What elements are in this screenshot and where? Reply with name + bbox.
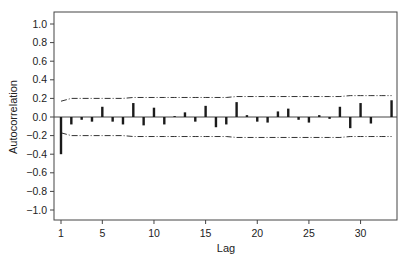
acf-bar bbox=[277, 111, 279, 117]
acf-bar bbox=[173, 116, 175, 117]
y-tick-label: 0.4 bbox=[32, 73, 47, 85]
plot-frame bbox=[54, 12, 397, 220]
y-tick-label: 0.8 bbox=[32, 36, 47, 48]
acf-bar bbox=[318, 115, 320, 117]
acf-bars bbox=[60, 100, 393, 154]
acf-bar bbox=[308, 117, 310, 123]
acf-bar bbox=[359, 103, 361, 117]
y-axis-label: Autocorrelation bbox=[7, 80, 19, 154]
acf-bar bbox=[246, 115, 248, 117]
x-tick-label: 30 bbox=[355, 227, 367, 239]
x-tick-label: 25 bbox=[303, 227, 315, 239]
y-tick-label: −0.6 bbox=[26, 166, 47, 178]
acf-bar bbox=[91, 117, 93, 122]
y-tick-label: −1.0 bbox=[26, 204, 47, 216]
y-tick-label: −0.4 bbox=[26, 148, 47, 160]
acf-bar bbox=[297, 117, 299, 120]
acf-bar bbox=[153, 108, 155, 117]
x-tick-label: 15 bbox=[200, 227, 212, 239]
plot-border bbox=[54, 12, 397, 220]
y-axis: 1.00.80.60.40.20.0−0.2−0.4−0.6−0.8−1.0 bbox=[26, 18, 54, 216]
y-tick-label: 0.2 bbox=[32, 92, 47, 104]
acf-bar bbox=[225, 117, 227, 124]
acf-bar bbox=[349, 117, 351, 128]
y-tick-label: −0.2 bbox=[26, 129, 47, 141]
acf-bar bbox=[266, 117, 268, 123]
y-tick-label: 0.6 bbox=[32, 55, 47, 67]
acf-bar bbox=[132, 103, 134, 117]
y-tick-label: 1.0 bbox=[32, 18, 47, 30]
acf-bar bbox=[328, 117, 330, 119]
acf-bar bbox=[80, 117, 82, 120]
x-tick-label: 20 bbox=[251, 227, 263, 239]
acf-bar bbox=[101, 107, 103, 117]
y-tick-label: 0.0 bbox=[32, 111, 47, 123]
x-tick-label: 10 bbox=[148, 227, 160, 239]
x-axis: 151015202530 bbox=[58, 220, 366, 239]
acf-bar bbox=[111, 117, 113, 122]
acf-bar bbox=[215, 117, 217, 127]
acf-chart: 1.00.80.60.40.20.0−0.2−0.4−0.6−0.8−1.0 1… bbox=[0, 0, 407, 263]
acf-bar bbox=[163, 117, 165, 124]
acf-bar bbox=[204, 106, 206, 117]
acf-bar bbox=[370, 117, 372, 124]
acf-bar bbox=[60, 117, 62, 154]
x-axis-label: Lag bbox=[217, 242, 235, 254]
x-tick-label: 1 bbox=[58, 227, 64, 239]
acf-bar bbox=[184, 112, 186, 117]
acf-bar bbox=[70, 117, 72, 124]
acf-bar bbox=[390, 100, 392, 117]
x-tick-label: 5 bbox=[99, 227, 105, 239]
acf-bar bbox=[235, 102, 237, 117]
acf-bar bbox=[194, 117, 196, 122]
acf-bar bbox=[339, 107, 341, 117]
acf-bar bbox=[122, 117, 124, 124]
acf-bar bbox=[256, 117, 258, 122]
upper-bound-line bbox=[61, 96, 392, 102]
y-tick-label: −0.8 bbox=[26, 185, 47, 197]
acf-bar bbox=[142, 117, 144, 125]
acf-bar bbox=[287, 109, 289, 117]
lower-bound-line bbox=[61, 133, 392, 138]
